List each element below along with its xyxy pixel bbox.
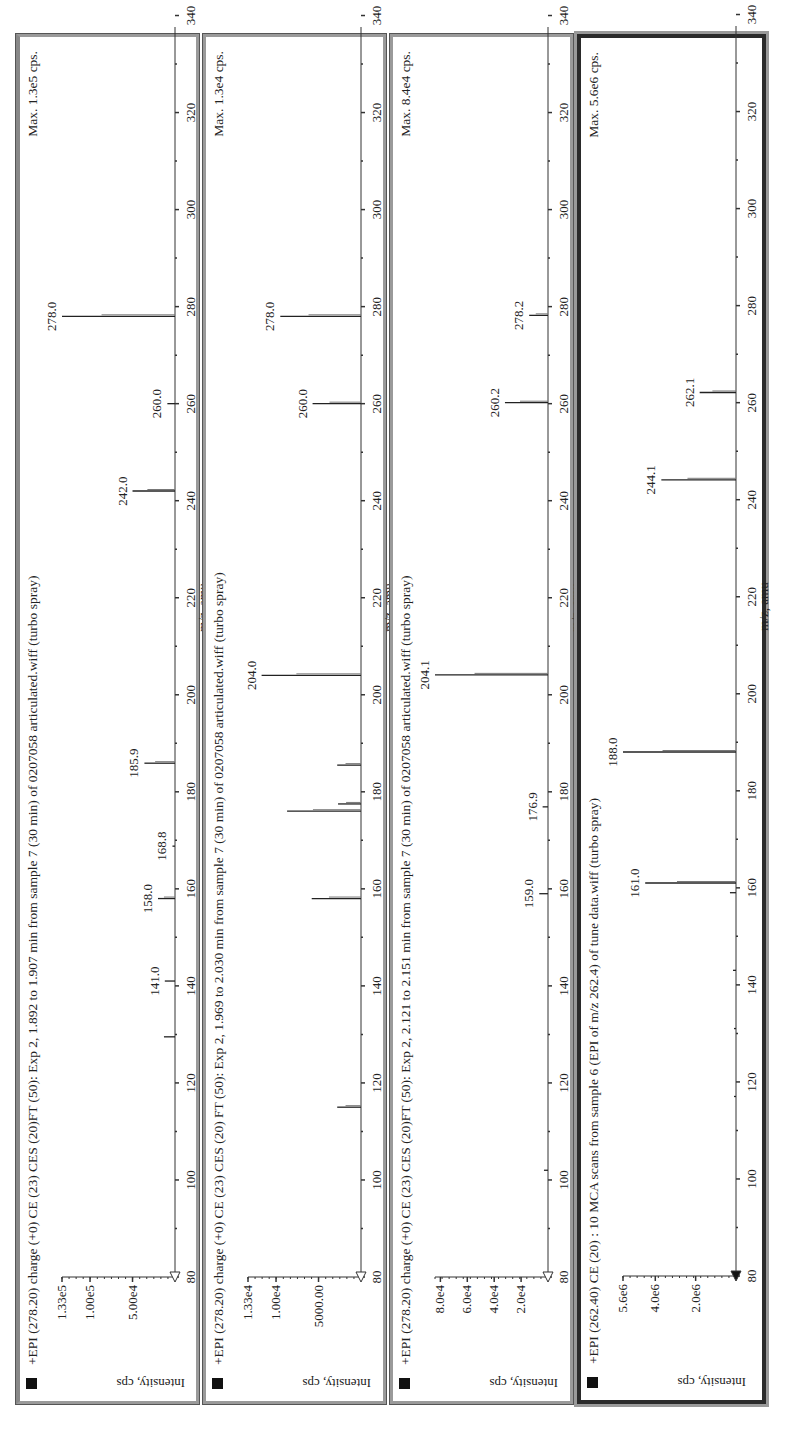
peak-label: 185.9 [126, 749, 141, 778]
y-tick-label: 1.33e5 [54, 1285, 69, 1320]
peak-label: 242.0 [115, 476, 130, 505]
peak-label: 262.1 [682, 378, 697, 407]
x-tick-label: 160 [369, 879, 384, 899]
y-axis-label: Intensity, cps [678, 1375, 746, 1390]
x-tick-label: 300 [369, 200, 384, 220]
peak-label: 161.0 [627, 868, 642, 897]
x-tick-label: 100 [369, 1170, 384, 1190]
x-tick-label: 340 [556, 6, 571, 26]
y-tick-label: 2.0e4 [513, 1285, 528, 1314]
x-tick-label: 240 [183, 491, 198, 511]
x-tick-label: 80 [183, 1271, 198, 1284]
x-tick-label: 320 [183, 103, 198, 123]
y-axis-label: Intensity, cps [490, 1376, 558, 1391]
peak-label: 244.1 [643, 465, 658, 494]
x-tick-label: 200 [369, 685, 384, 705]
spectrum-panel-2: +EPI (278.20) charge (+0) CE (23) CES (2… [203, 34, 386, 1404]
spectrum-panel-3: +EPI (278.20) charge (+0) CE (23) CES (2… [390, 34, 573, 1404]
x-tick-label: 140 [556, 976, 571, 996]
x-tick-label: 120 [369, 1073, 384, 1093]
x-tick-label: 320 [744, 102, 759, 122]
x-tick-label: 180 [183, 782, 198, 802]
x-tick-label: 240 [744, 490, 759, 510]
spectrum-plot: 8010012014016018020022024026028030032034… [581, 30, 770, 1400]
x-tick-label: 100 [556, 1170, 571, 1190]
y-axis-label: Intensity, cps [303, 1376, 371, 1391]
peak-label: 278.0 [44, 302, 59, 331]
peak-label: 204.0 [244, 661, 259, 690]
peak-label: 141.0 [147, 966, 162, 995]
x-tick-label: 180 [556, 782, 571, 802]
x-axis-label: m/z, amu [756, 582, 771, 631]
y-tick-label: 6.0e4 [459, 1285, 474, 1314]
x-tick-label: 300 [744, 199, 759, 219]
x-tick-label: 120 [556, 1073, 571, 1093]
x-tick-label: 200 [744, 684, 759, 704]
x-tick-label: 260 [744, 393, 759, 413]
x-tick-label: 140 [369, 976, 384, 996]
peak-label: 278.2 [511, 301, 526, 330]
peak-label: 260.2 [487, 388, 502, 417]
peak-label: 168.8 [154, 832, 169, 861]
x-tick-label: 120 [183, 1073, 198, 1093]
x-tick-label: 260 [369, 394, 384, 414]
x-tick-label: 280 [183, 297, 198, 317]
x-tick-label: 280 [556, 297, 571, 317]
peak-label: 188.0 [605, 737, 620, 766]
peak-label: 158.0 [140, 884, 155, 913]
y-axis-label: Intensity, cps [117, 1376, 185, 1391]
y-tick-label: 4.0e6 [647, 1284, 662, 1313]
x-tick-label: 80 [556, 1271, 571, 1284]
peak-label: 260.0 [295, 389, 310, 418]
spectrum-plot: 8010012014016018020022024026028030032034… [393, 31, 576, 1401]
y-tick-label: 2.0e6 [688, 1284, 703, 1313]
x-tick-label: 180 [744, 781, 759, 801]
x-tick-label: 260 [556, 394, 571, 414]
x-tick-label: 180 [369, 782, 384, 802]
spectrum-plot: 8010012014016018020022024026028030032034… [206, 31, 389, 1401]
x-tick-label: 260 [183, 394, 198, 414]
y-tick-label: 4.0e4 [486, 1285, 501, 1314]
x-tick-label: 300 [183, 200, 198, 220]
x-tick-label: 240 [556, 491, 571, 511]
x-tick-label: 80 [369, 1271, 384, 1284]
x-tick-label: 80 [744, 1270, 759, 1283]
peak-label: 204.1 [417, 660, 432, 689]
peak-label: 159.0 [521, 879, 536, 908]
spectrum-panel-1: +EPI (278.20) charge (+0) CE (23) CES (2… [16, 34, 199, 1404]
x-tick-label: 100 [183, 1170, 198, 1190]
peak-label: 278.0 [262, 302, 277, 331]
peak-label: 176.9 [525, 792, 540, 821]
spectra-figure: +EPI (278.20) charge (+0) CE (23) CES (2… [0, 0, 785, 1446]
x-tick-label: 280 [369, 297, 384, 317]
y-tick-label: 5.00e4 [125, 1285, 140, 1321]
x-tick-label: 340 [369, 6, 384, 26]
y-tick-label: 1.33e4 [240, 1285, 255, 1321]
x-tick-label: 300 [556, 200, 571, 220]
x-tick-label: 320 [369, 103, 384, 123]
spectrum-plot: 8010012014016018020022024026028030032034… [20, 31, 203, 1401]
y-tick-label: 1.00e5 [82, 1285, 97, 1320]
x-tick-label: 100 [744, 1169, 759, 1189]
y-tick-label: 1.00e4 [268, 1285, 283, 1321]
x-tick-label: 340 [744, 5, 759, 25]
x-tick-label: 200 [183, 685, 198, 705]
x-tick-label: 160 [183, 879, 198, 899]
x-tick-label: 320 [556, 103, 571, 123]
y-tick-label: 5000.00 [311, 1285, 326, 1327]
x-tick-label: 140 [183, 976, 198, 996]
x-tick-label: 120 [744, 1072, 759, 1092]
x-tick-label: 200 [556, 685, 571, 705]
spectrum-panel-4: +EPI (262.40) CE (20) : 10 MCA scans fro… [577, 34, 766, 1404]
x-tick-label: 280 [744, 296, 759, 316]
y-tick-label: 8.0e4 [432, 1285, 447, 1314]
y-tick-label: 5.6e6 [615, 1284, 630, 1313]
x-tick-label: 240 [369, 491, 384, 511]
x-tick-label: 340 [183, 6, 198, 26]
x-tick-label: 160 [556, 879, 571, 899]
peak-label: 260.0 [149, 389, 164, 418]
x-tick-label: 160 [744, 878, 759, 898]
x-tick-label: 140 [744, 975, 759, 995]
